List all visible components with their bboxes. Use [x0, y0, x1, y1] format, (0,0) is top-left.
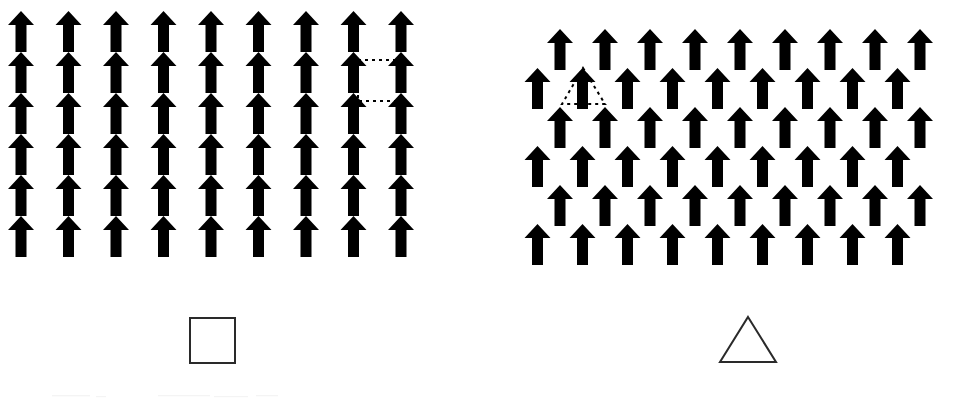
up-arrow-icon	[660, 146, 686, 187]
up-arrow-icon	[862, 185, 888, 226]
up-arrow-icon	[246, 175, 272, 216]
up-arrow-icon	[198, 134, 224, 175]
up-arrow-icon	[592, 107, 618, 148]
up-arrow-icon	[246, 216, 272, 257]
up-arrow-icon	[525, 224, 551, 265]
up-arrow-icon	[293, 93, 319, 134]
up-arrow-icon	[151, 175, 177, 216]
up-arrow-icon	[56, 175, 82, 216]
up-arrow-icon	[8, 175, 34, 216]
up-arrow-icon	[570, 224, 596, 265]
up-arrow-icon	[341, 93, 367, 134]
up-arrow-icon	[862, 107, 888, 148]
up-arrow-icon	[862, 29, 888, 70]
up-arrow-icon	[8, 216, 34, 257]
up-arrow-icon	[103, 93, 129, 134]
up-arrow-icon	[8, 93, 34, 134]
up-arrow-icon	[388, 52, 414, 93]
up-arrow-icon	[151, 11, 177, 52]
up-arrow-icon	[705, 68, 731, 109]
up-arrow-icon	[547, 29, 573, 70]
square-lattice-svg	[0, 0, 486, 401]
up-arrow-icon	[772, 185, 798, 226]
up-arrow-icon	[388, 216, 414, 257]
up-arrow-icon	[525, 146, 551, 187]
up-arrow-icon	[388, 11, 414, 52]
up-arrow-icon	[293, 175, 319, 216]
up-arrow-icon	[907, 29, 933, 70]
up-arrow-icon	[840, 224, 866, 265]
up-arrow-icon	[8, 134, 34, 175]
up-arrow-icon	[341, 216, 367, 257]
up-arrow-icon	[727, 29, 753, 70]
up-arrow-icon	[198, 175, 224, 216]
up-arrow-icon	[660, 224, 686, 265]
triangular-lattice-panel	[487, 0, 973, 401]
up-arrow-icon	[103, 52, 129, 93]
up-arrow-icon	[795, 68, 821, 109]
up-arrow-icon	[592, 185, 618, 226]
up-arrow-icon	[840, 146, 866, 187]
up-arrow-icon	[885, 146, 911, 187]
up-arrow-icon	[750, 146, 776, 187]
up-arrow-icon	[840, 68, 866, 109]
up-arrow-icon	[907, 185, 933, 226]
up-arrow-icon	[660, 68, 686, 109]
up-arrow-icon	[615, 146, 641, 187]
up-arrow-icon	[198, 52, 224, 93]
legend-triangle-icon	[720, 317, 776, 362]
figure-canvas	[0, 0, 973, 401]
up-arrow-icon	[885, 68, 911, 109]
up-arrow-icon	[615, 224, 641, 265]
up-arrow-icon	[103, 11, 129, 52]
up-arrow-icon	[705, 224, 731, 265]
up-arrow-icon	[151, 134, 177, 175]
up-arrow-icon	[682, 29, 708, 70]
up-arrow-icon	[103, 216, 129, 257]
up-arrow-icon	[151, 216, 177, 257]
up-arrow-icon	[817, 107, 843, 148]
up-arrow-icon	[388, 93, 414, 134]
up-arrow-icon	[341, 11, 367, 52]
up-arrow-icon	[772, 29, 798, 70]
up-arrow-icon	[293, 11, 319, 52]
up-arrow-icon	[341, 134, 367, 175]
legend-square-icon	[190, 318, 235, 363]
up-arrow-icon	[103, 134, 129, 175]
up-arrow-icon	[8, 52, 34, 93]
up-arrow-icon	[772, 107, 798, 148]
up-arrow-icon	[151, 93, 177, 134]
unit-cell-square	[358, 60, 399, 101]
up-arrow-icon	[547, 107, 573, 148]
up-arrow-icon	[293, 134, 319, 175]
up-arrow-icon	[907, 107, 933, 148]
up-arrow-icon	[198, 93, 224, 134]
up-arrow-icon	[682, 185, 708, 226]
up-arrow-icon	[293, 52, 319, 93]
up-arrow-icon	[341, 175, 367, 216]
up-arrow-icon	[56, 134, 82, 175]
up-arrow-icon	[56, 11, 82, 52]
up-arrow-icon	[246, 93, 272, 134]
up-arrow-icon	[198, 11, 224, 52]
up-arrow-icon	[750, 68, 776, 109]
up-arrow-icon	[103, 175, 129, 216]
up-arrow-icon	[547, 185, 573, 226]
arrow-group	[525, 29, 934, 265]
arrow-group	[8, 11, 414, 257]
up-arrow-icon	[388, 175, 414, 216]
up-arrow-icon	[293, 216, 319, 257]
up-arrow-icon	[637, 107, 663, 148]
up-arrow-icon	[592, 29, 618, 70]
up-arrow-icon	[727, 185, 753, 226]
up-arrow-icon	[246, 134, 272, 175]
up-arrow-icon	[56, 52, 82, 93]
up-arrow-icon	[570, 146, 596, 187]
up-arrow-icon	[8, 11, 34, 52]
square-lattice-panel	[0, 0, 486, 401]
up-arrow-icon	[817, 185, 843, 226]
up-arrow-icon	[637, 29, 663, 70]
up-arrow-icon	[151, 52, 177, 93]
up-arrow-icon	[727, 107, 753, 148]
up-arrow-icon	[885, 224, 911, 265]
